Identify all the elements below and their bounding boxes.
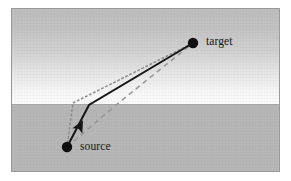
node-source-dot [62,142,72,152]
node-source-label: source [80,141,111,153]
path-direct-dashed [67,43,193,147]
figure-canvas: target source [0,0,291,181]
node-target-dot [188,38,198,48]
node-target-label: target [206,36,233,48]
diagram-panel: target source [11,8,280,172]
paths-layer [12,9,280,172]
